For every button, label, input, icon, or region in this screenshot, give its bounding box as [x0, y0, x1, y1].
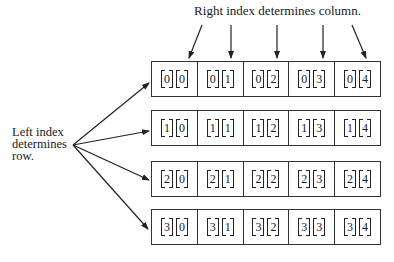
array-cell: 13	[289, 111, 335, 145]
row-index: 0	[344, 70, 356, 88]
column-label: Right index determines column.	[190, 3, 365, 19]
row-label-line: row.	[12, 150, 67, 162]
array-cell: 34	[335, 210, 380, 244]
row-arrows	[73, 83, 149, 229]
column-index: 3	[313, 218, 325, 236]
column-index: 3	[313, 170, 325, 188]
array-cell: 03	[289, 62, 335, 96]
row-index: 1	[161, 119, 173, 137]
array-cell: 31	[198, 210, 244, 244]
row-index: 1	[344, 119, 356, 137]
array-cell: 04	[335, 62, 380, 96]
array-cell: 12	[244, 111, 290, 145]
array-row-0: 0001020304	[151, 61, 381, 97]
array-cell: 23	[289, 162, 335, 196]
array-row-2: 2021222324	[151, 161, 381, 197]
row-label: Left index determines row.	[12, 126, 67, 162]
row-index: 1	[252, 119, 264, 137]
row-index: 3	[344, 218, 356, 236]
column-index: 1	[222, 170, 234, 188]
array-cell: 30	[152, 210, 198, 244]
column-index: 2	[267, 119, 279, 137]
row-index: 2	[252, 170, 264, 188]
array-cell: 00	[152, 62, 198, 96]
array-cell: 24	[335, 162, 380, 196]
array-cell: 14	[335, 111, 380, 145]
row-index: 2	[207, 170, 219, 188]
column-index: 2	[267, 218, 279, 236]
array-cell: 22	[244, 162, 290, 196]
array-cell: 11	[198, 111, 244, 145]
array-cell: 01	[198, 62, 244, 96]
column-index: 4	[359, 170, 371, 188]
column-index: 1	[222, 70, 234, 88]
array-row-3: 3031323334	[151, 209, 381, 245]
array-cell: 33	[289, 210, 335, 244]
row-index: 0	[161, 70, 173, 88]
row-index: 3	[298, 218, 310, 236]
two-dimensional-array-diagram: Right index determines column. Left inde…	[0, 0, 394, 262]
column-index: 2	[267, 170, 279, 188]
row-index: 3	[252, 218, 264, 236]
column-index: 3	[313, 119, 325, 137]
column-index: 4	[359, 119, 371, 137]
row-index: 0	[298, 70, 310, 88]
column-index: 0	[176, 119, 188, 137]
array-cell: 32	[244, 210, 290, 244]
row-index: 2	[344, 170, 356, 188]
column-index: 0	[176, 218, 188, 236]
column-arrows	[189, 25, 366, 58]
column-index: 1	[222, 218, 234, 236]
column-index: 3	[313, 70, 325, 88]
row-index: 2	[298, 170, 310, 188]
column-index: 0	[176, 70, 188, 88]
column-index: 4	[359, 218, 371, 236]
array-row-1: 1011121314	[151, 110, 381, 146]
row-index: 1	[207, 119, 219, 137]
column-index: 4	[359, 70, 371, 88]
array-cell: 10	[152, 111, 198, 145]
column-index: 1	[222, 119, 234, 137]
row-index: 1	[298, 119, 310, 137]
row-index: 0	[252, 70, 264, 88]
row-index: 2	[161, 170, 173, 188]
row-index: 3	[207, 218, 219, 236]
array-cell: 21	[198, 162, 244, 196]
row-index: 3	[161, 218, 173, 236]
array-cell: 02	[244, 62, 290, 96]
array-cell: 20	[152, 162, 198, 196]
column-index: 2	[267, 70, 279, 88]
column-index: 0	[176, 170, 188, 188]
row-index: 0	[207, 70, 219, 88]
